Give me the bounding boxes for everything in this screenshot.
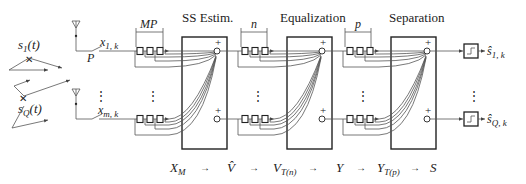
decision-device-1: ŝ1, k <box>464 44 506 60</box>
ellipsis: ⋮ <box>147 89 159 103</box>
stage-title-sep: Separation <box>389 10 445 25</box>
summing-node <box>319 116 325 122</box>
svg-text:ŝ1, k: ŝ1, k <box>487 44 506 60</box>
source-Q: ✕ sQ(t) <box>12 80 70 128</box>
svg-text:n: n <box>251 17 257 31</box>
window-ss: MP <box>136 17 163 47</box>
svg-text:→: → <box>308 162 318 173</box>
svg-text:ŝQ, k: ŝQ, k <box>487 112 508 128</box>
antenna-row-1: P x1, k <box>72 21 137 65</box>
svg-text:x1, k: x1, k <box>99 35 119 51</box>
source-1: s1(t) ✕ <box>9 37 62 70</box>
svg-text:XM: XM <box>169 160 186 177</box>
svg-text:V̂: V̂ <box>227 160 237 175</box>
svg-text:→: → <box>356 162 366 173</box>
svg-text:S: S <box>430 160 437 175</box>
ellipsis: ⋮ <box>95 89 107 103</box>
svg-text:MP: MP <box>139 17 158 31</box>
ellipsis: ⋮ <box>252 89 264 103</box>
svg-text:+: + <box>425 104 431 116</box>
svg-text:p: p <box>354 17 361 31</box>
ellipsis: ⋮ <box>357 89 369 103</box>
antenna-icon <box>72 89 80 103</box>
summing-node <box>424 116 430 122</box>
svg-text:YT(p): YT(p) <box>377 160 400 177</box>
summing-node <box>424 48 430 54</box>
stage-title-eq: Equalization <box>280 10 346 25</box>
svg-text:+: + <box>215 104 221 116</box>
window-sep: p <box>345 17 371 47</box>
summing-node <box>214 116 220 122</box>
svg-text:→: → <box>410 162 420 173</box>
sampler-label: P <box>86 51 95 65</box>
svg-text:→: → <box>249 162 259 173</box>
summing-node <box>319 48 325 54</box>
signal-flow: XM → V̂ → VT(n) → Y → YT(p) → S <box>169 160 437 177</box>
window-eq: n <box>241 17 267 47</box>
stage-title-ss: SS Estim. <box>182 10 233 25</box>
stage-ss-combiner: + + <box>169 36 242 135</box>
decision-device-Q: ŝQ, k <box>464 112 508 128</box>
ellipsis: ⋮ <box>468 89 480 103</box>
svg-text:→: → <box>200 162 210 173</box>
svg-text:+: + <box>320 104 326 116</box>
svg-text:+: + <box>320 36 326 48</box>
svg-text:sQ(t): sQ(t) <box>18 101 42 118</box>
svg-text:+: + <box>425 36 431 48</box>
svg-text:+: + <box>215 36 221 48</box>
block-diagram: SS Estim. Equalization Separation s1(t) … <box>0 0 526 184</box>
svg-text:Y: Y <box>336 160 345 175</box>
svg-text:VT(n): VT(n) <box>273 160 296 177</box>
svg-text:s1(t): s1(t) <box>18 37 40 54</box>
stage-eq-combiner: + + <box>274 36 347 135</box>
summing-node <box>214 48 220 54</box>
svg-text:xm, k: xm, k <box>97 103 119 119</box>
antenna-icon <box>72 21 80 35</box>
